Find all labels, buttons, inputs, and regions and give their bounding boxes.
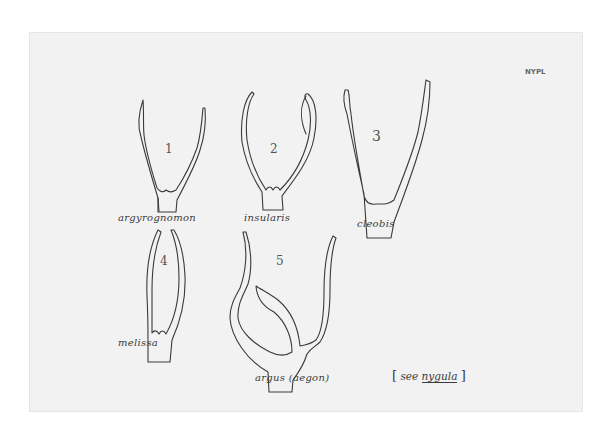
- figure-label-2: insularis: [244, 212, 290, 223]
- note-bracket-open: [: [392, 368, 397, 383]
- figure-number-3: 3: [372, 128, 381, 144]
- figure-2-drawing: [241, 92, 316, 210]
- figure-number-5: 5: [276, 254, 284, 268]
- figure-number-4: 4: [160, 254, 168, 268]
- note-prefix: see: [400, 370, 418, 382]
- figure-number-2: 2: [270, 142, 278, 156]
- nypl-stamp: NYPL: [525, 68, 546, 76]
- figure-1-drawing: [139, 100, 206, 212]
- figure-label-1: argyrognomon: [118, 212, 196, 223]
- cross-reference-note: [ see nygula ]: [392, 368, 466, 383]
- figure-label-5: argus (aegon): [255, 372, 329, 383]
- figure-label-4: melissa: [118, 337, 158, 348]
- figure-label-3: cleobis: [357, 218, 395, 229]
- note-link-nygula: nygula: [422, 370, 458, 383]
- figure-number-1: 1: [165, 142, 173, 156]
- figure-3-drawing: [344, 80, 430, 238]
- note-bracket-close: ]: [461, 368, 466, 383]
